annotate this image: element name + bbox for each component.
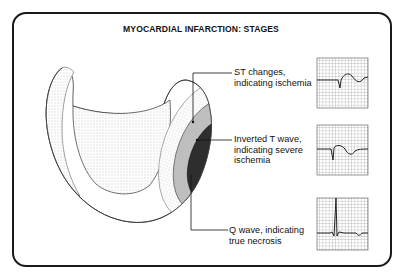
- label-inverted-t-wave: Inverted T wave, indicating severe ische…: [234, 134, 303, 166]
- heart-illustration: [0, 0, 402, 276]
- label-st-changes: ST changes, indicating ischemia: [234, 67, 312, 88]
- label-line: indicating ischemia: [234, 78, 312, 89]
- ecg-strip-q-wave: [317, 198, 368, 250]
- label-line: ischemia: [234, 155, 303, 166]
- label-line: true necrosis: [229, 236, 304, 247]
- label-line: Inverted T wave,: [234, 134, 303, 145]
- label-line: ST changes,: [234, 67, 312, 78]
- ecg-strip-st-changes: [317, 58, 368, 108]
- label-line: Q wave, indicating: [229, 225, 304, 236]
- ecg-strip-inverted-t: [317, 125, 368, 175]
- label-q-wave: Q wave, indicating true necrosis: [229, 225, 304, 246]
- label-line: indicating severe: [234, 145, 303, 156]
